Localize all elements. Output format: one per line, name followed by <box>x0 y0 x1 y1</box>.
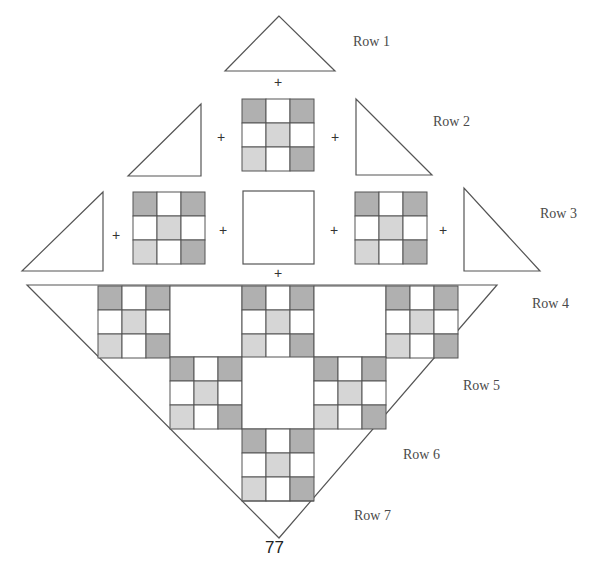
nine-patch-cell-white <box>133 216 157 240</box>
row4-plain-square-2 <box>314 286 386 357</box>
row-label-5: Row 5 <box>463 378 500 394</box>
nine-patch-cell-dark <box>362 357 386 381</box>
nine-patch-cell-dark <box>290 286 314 310</box>
nine-patch-cell-dark <box>290 147 314 171</box>
row-label-6: Row 6 <box>403 447 440 463</box>
nine-patch-cell-white <box>98 310 122 334</box>
plus-row3-3: + <box>330 223 338 237</box>
nine-patch-cell-white <box>266 147 290 171</box>
nine-patch-cell-white <box>314 381 338 405</box>
nine-patch-cell-light <box>242 147 266 171</box>
nine-patch-cell-white <box>194 405 218 429</box>
plus-row3-4: + <box>439 223 447 237</box>
nine-patch-cell-white <box>266 99 290 123</box>
plus-row3-row4: + <box>274 266 282 280</box>
nine-patch-cell-dark <box>218 405 242 429</box>
nine-patch-cell-light <box>314 405 338 429</box>
nine-patch-cell-white <box>338 357 362 381</box>
nine-patch-cell-white <box>290 453 314 477</box>
nine-patch-cell-dark <box>181 240 205 264</box>
nine-patch-cell-white <box>410 334 434 358</box>
nine-patch-cell-dark <box>290 477 314 501</box>
nine-patch-cell-white <box>242 453 266 477</box>
nine-patch-cell-white <box>379 192 403 216</box>
nine-patch-cell-white <box>290 123 314 147</box>
nine-patch-cell-light <box>338 381 362 405</box>
row3-left-triangle <box>22 192 103 271</box>
page-number: 77 <box>265 538 284 558</box>
nine-patch-cell-light <box>122 310 146 334</box>
row5-plain-square <box>242 357 314 429</box>
row2-left-triangle <box>128 104 201 176</box>
nine-patch-cell-white <box>157 240 181 264</box>
nine-patch-cell-dark <box>290 429 314 453</box>
nine-patch-cell-dark <box>98 286 122 310</box>
nine-patch-cell-dark <box>146 286 170 310</box>
nine-patch-cell-white <box>194 357 218 381</box>
nine-patch-cell-light <box>170 405 194 429</box>
nine-patch-cell-white <box>122 334 146 358</box>
nine-patch-cell-dark <box>434 334 458 358</box>
nine-patch-cell-white <box>410 286 434 310</box>
nine-patch-cell-dark <box>290 334 314 358</box>
row4-nine-patch-1 <box>98 286 170 358</box>
nine-patch-cell-white <box>386 310 410 334</box>
nine-patch-cell-light <box>355 240 379 264</box>
nine-patch-cell-white <box>290 310 314 334</box>
nine-patch-cell-white <box>242 123 266 147</box>
row4-nine-patch-2 <box>242 286 314 358</box>
nine-patch-cell-light <box>386 334 410 358</box>
nine-patch-cell-light <box>410 310 434 334</box>
nine-patch-cell-white <box>181 216 205 240</box>
nine-patch-cell-white <box>242 310 266 334</box>
nine-patch-cell-dark <box>314 357 338 381</box>
nine-patch-cell-light <box>98 334 122 358</box>
row2-nine-patch <box>242 99 314 171</box>
row-label-1: Row 1 <box>353 34 390 50</box>
nine-patch-cell-dark <box>242 286 266 310</box>
nine-patch-cell-dark <box>242 429 266 453</box>
nine-patch-cell-light <box>266 453 290 477</box>
nine-patch-cell-white <box>266 334 290 358</box>
nine-patch-cell-white <box>362 381 386 405</box>
nine-patch-cell-light <box>379 216 403 240</box>
nine-patch-cell-white <box>170 381 194 405</box>
nine-patch-cell-white <box>266 429 290 453</box>
row3-plain-square <box>243 191 314 264</box>
nine-patch-cell-dark <box>218 357 242 381</box>
nine-patch-cell-light <box>266 310 290 334</box>
nine-patch-cell-light <box>194 381 218 405</box>
plus-row3-1: + <box>112 228 120 242</box>
nine-patch-cell-white <box>355 216 379 240</box>
plus-row1-row2: + <box>274 75 282 89</box>
plus-row2-right: + <box>331 130 339 144</box>
row4-nine-patch-3 <box>386 286 458 358</box>
nine-patch-cell-white <box>266 477 290 501</box>
nine-patch-cell-dark <box>133 192 157 216</box>
row-label-7: Row 7 <box>354 508 391 524</box>
row3-nine-patch-left <box>133 192 205 264</box>
nine-patch-cell-dark <box>146 334 170 358</box>
nine-patch-cell-white <box>266 286 290 310</box>
nine-patch-cell-dark <box>181 192 205 216</box>
nine-patch-cell-dark <box>403 240 427 264</box>
nine-patch-cell-white <box>218 381 242 405</box>
nine-patch-cell-dark <box>355 192 379 216</box>
row1-setting-triangle <box>225 16 335 71</box>
nine-patch-cell-dark <box>242 99 266 123</box>
nine-patch-cell-white <box>338 405 362 429</box>
plus-row2-left: + <box>217 130 225 144</box>
nine-patch-cell-dark <box>386 286 410 310</box>
row-label-4: Row 4 <box>532 296 569 312</box>
quilt-assembly-diagram <box>0 0 603 577</box>
nine-patch-cell-white <box>403 216 427 240</box>
nine-patch-cell-white <box>157 192 181 216</box>
nine-patch-cell-white <box>434 310 458 334</box>
nine-patch-cell-white <box>379 240 403 264</box>
nine-patch-cell-dark <box>403 192 427 216</box>
nine-patch-cell-light <box>157 216 181 240</box>
row-label-3: Row 3 <box>540 206 577 222</box>
row5-nine-patch-2 <box>314 357 386 429</box>
row5-nine-patch-1 <box>170 357 242 429</box>
nine-patch-cell-dark <box>170 357 194 381</box>
